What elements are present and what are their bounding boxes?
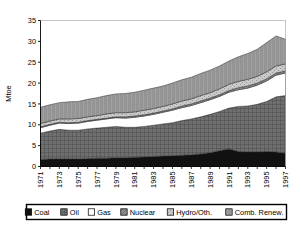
y-tick-label: 5: [32, 141, 36, 150]
legend-label: Coal: [34, 208, 50, 217]
x-tick-label: 1977: [93, 172, 102, 188]
y-axis-ticks: 05101520253035: [28, 16, 41, 171]
x-tick-label: 1985: [168, 172, 177, 188]
chart-container: 05101520253035Mtoe1971197319751977197919…: [0, 0, 301, 228]
x-tick-label: 1993: [243, 172, 252, 188]
y-tick-label: 30: [28, 37, 36, 46]
legend-swatch: [25, 209, 31, 215]
legend-item-coal: Coal: [25, 208, 50, 217]
legend-item-oil: Oil: [61, 208, 79, 217]
x-axis-ticks: 1971197319751977197919811983198519871989…: [36, 167, 290, 188]
legend-label: Gas: [97, 208, 111, 217]
y-tick-label: 25: [28, 58, 36, 67]
x-tick-label: 1995: [262, 172, 271, 188]
x-tick-label: 1981: [130, 172, 139, 188]
x-tick-label: 1989: [206, 172, 215, 188]
legend-item-nuclear: Nuclear: [121, 208, 156, 217]
y-tick-label: 35: [28, 16, 36, 25]
legend-label: Hydro/Oth.: [176, 208, 212, 217]
legend-label: Oil: [70, 208, 79, 217]
y-tick-label: 15: [28, 100, 36, 109]
stacked-area-chart: 05101520253035Mtoe1971197319751977197919…: [0, 0, 301, 228]
x-tick-label: 1979: [112, 172, 121, 188]
y-tick-label: 0: [32, 162, 36, 171]
legend-swatch: [167, 209, 173, 215]
legend-swatch: [88, 209, 94, 215]
legend-item-gas: Gas: [88, 208, 111, 217]
legend-swatch: [121, 209, 127, 215]
x-tick-label: 1973: [55, 172, 64, 188]
y-axis-title: Mtoe: [4, 85, 13, 101]
legend-item-hydro-oth: Hydro/Oth.: [167, 208, 212, 217]
legend-label: Nuclear: [130, 208, 156, 217]
legend: CoalOilGasNuclearHydro/Oth.Comb. Renew.: [25, 205, 286, 220]
legend-item-comb-renew: Comb. Renew.: [226, 208, 283, 217]
legend-swatch: [61, 209, 67, 215]
y-tick-label: 20: [28, 79, 36, 88]
legend-swatch: [226, 209, 232, 215]
x-tick-label: 1991: [225, 172, 234, 188]
x-tick-label: 1975: [74, 172, 83, 188]
y-tick-label: 10: [28, 120, 36, 129]
x-tick-label: 1983: [149, 172, 158, 188]
x-tick-label: 1987: [187, 172, 196, 188]
x-tick-label: 1997: [281, 172, 290, 188]
x-tick-label: 1971: [36, 172, 45, 188]
legend-label: Comb. Renew.: [235, 208, 283, 217]
